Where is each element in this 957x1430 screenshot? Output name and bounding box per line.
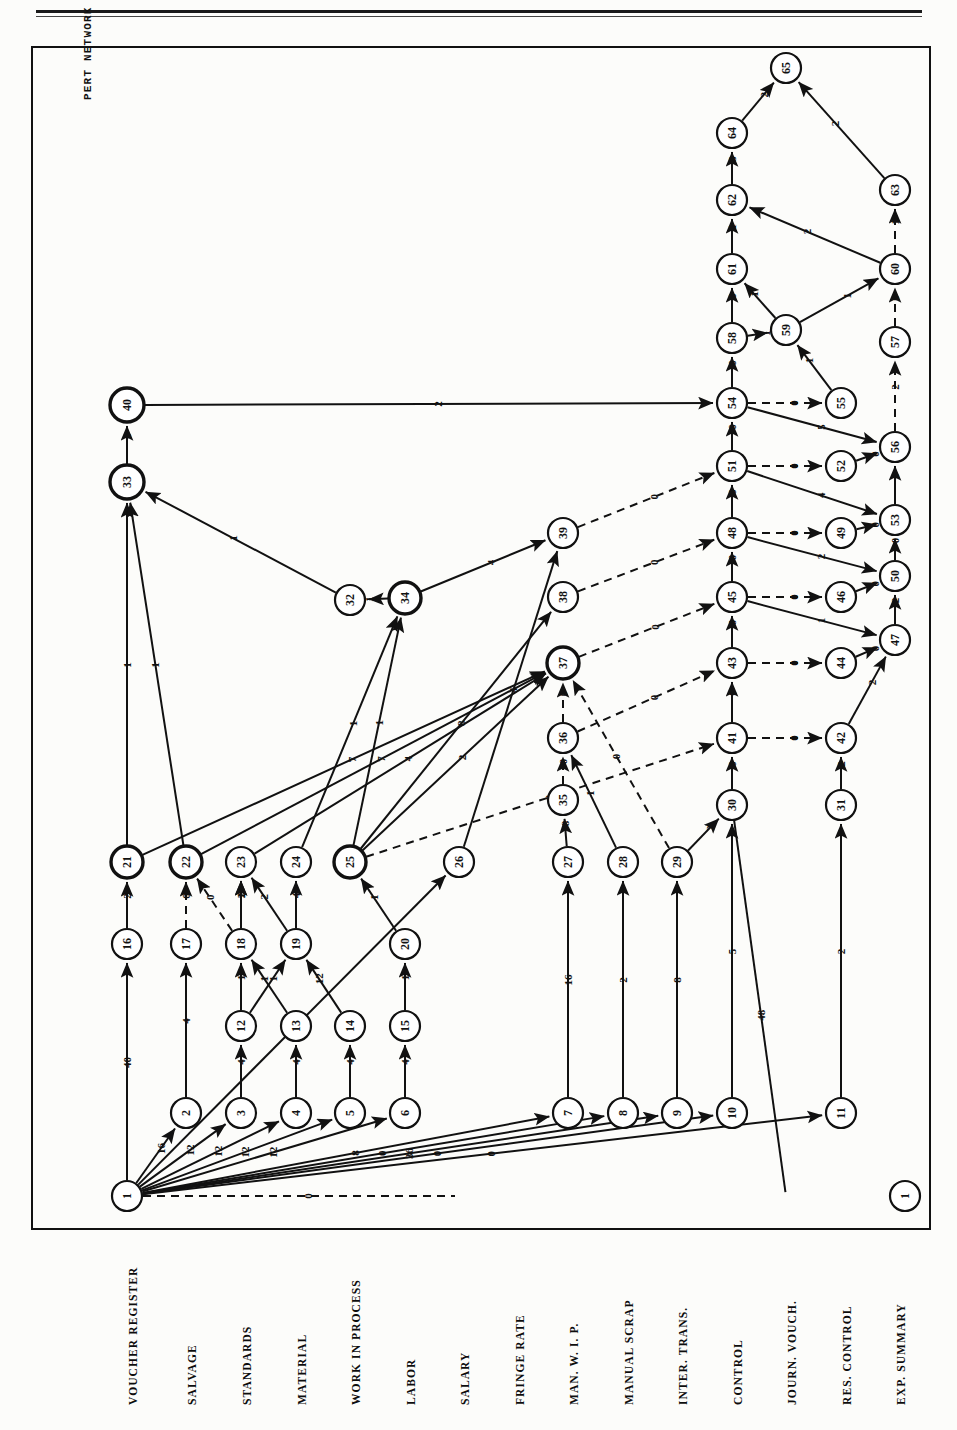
node-56[interactable]: 56 <box>880 432 910 462</box>
node-31[interactable]: 31 <box>826 790 856 820</box>
node-3[interactable]: 3 <box>226 1098 256 1128</box>
node-label-36: 36 <box>556 732 570 744</box>
edge-label-20-25: 1 <box>368 894 380 900</box>
node-9[interactable]: 9 <box>662 1098 692 1128</box>
node-45[interactable]: 45 <box>717 582 747 612</box>
node-29[interactable]: 29 <box>662 847 692 877</box>
node-48[interactable]: 48 <box>717 518 747 548</box>
node-47[interactable]: 47 <box>880 625 910 655</box>
edge-label-29-37: 0 <box>610 753 622 759</box>
node-4[interactable]: 4 <box>281 1098 311 1128</box>
node-15[interactable]: 15 <box>390 1011 420 1041</box>
node-38[interactable]: 38 <box>548 582 578 612</box>
node-54[interactable]: 54 <box>717 388 747 418</box>
node-14[interactable]: 14 <box>335 1011 365 1041</box>
node-28[interactable]: 28 <box>608 847 638 877</box>
node-44[interactable]: 44 <box>826 648 856 678</box>
edge-59-60 <box>800 278 878 322</box>
node-10[interactable]: 10 <box>717 1098 747 1128</box>
node-8[interactable]: 8 <box>608 1098 638 1128</box>
node-1b[interactable]: 1 <box>890 1181 920 1211</box>
edge-label-5-14: 4 <box>344 1059 356 1065</box>
edge-37-45 <box>579 604 714 657</box>
node-label-63: 63 <box>888 184 902 196</box>
node-22[interactable]: 22 <box>170 846 202 878</box>
node-30[interactable]: 30 <box>717 790 747 820</box>
node-46[interactable]: 46 <box>826 582 856 612</box>
node-32[interactable]: 32 <box>335 585 365 615</box>
edge-label-53-56: 0 <box>889 473 901 479</box>
edge-25-34 <box>353 618 400 846</box>
node-13[interactable]: 13 <box>281 1011 311 1041</box>
node-12[interactable]: 12 <box>226 1011 256 1041</box>
node-11[interactable]: 11 <box>826 1098 856 1128</box>
node-26[interactable]: 26 <box>444 847 474 877</box>
node-20[interactable]: 20 <box>390 929 420 959</box>
node-41[interactable]: 41 <box>717 723 747 753</box>
node-65[interactable]: 65 <box>771 53 801 83</box>
node-1[interactable]: 1 <box>112 1181 142 1211</box>
node-label-2: 2 <box>179 1110 193 1116</box>
node-19[interactable]: 19 <box>281 929 311 959</box>
edge-label-58-61: 0 <box>726 293 738 299</box>
node-52[interactable]: 52 <box>826 451 856 481</box>
node-6[interactable]: 6 <box>390 1098 420 1128</box>
row-label-9: MANUAL SCRAP <box>623 1299 635 1405</box>
node-label-8: 8 <box>616 1110 630 1116</box>
node-27[interactable]: 27 <box>553 847 583 877</box>
node-5[interactable]: 5 <box>335 1098 365 1128</box>
edge-21-37 <box>142 671 544 855</box>
row-label-7: FRINGE RATE <box>514 1314 526 1405</box>
node-23[interactable]: 23 <box>226 847 256 877</box>
node-33[interactable]: 33 <box>110 465 144 499</box>
node-58[interactable]: 58 <box>717 323 747 353</box>
node-17[interactable]: 17 <box>171 929 201 959</box>
edge-label-41-42: 0 <box>788 735 800 741</box>
node-64[interactable]: 64 <box>717 118 747 148</box>
edge-25-37 <box>362 677 548 851</box>
node-label-14: 14 <box>343 1020 357 1032</box>
node-59[interactable]: 59 <box>771 315 801 345</box>
node-57[interactable]: 57 <box>880 327 910 357</box>
node-label-6: 6 <box>398 1110 412 1116</box>
node-21[interactable]: 21 <box>111 846 143 878</box>
node-61[interactable]: 61 <box>717 254 747 284</box>
node-label-62: 62 <box>725 194 739 206</box>
node-60[interactable]: 60 <box>880 254 910 284</box>
edge-40-54 <box>145 403 713 405</box>
node-7[interactable]: 7 <box>553 1098 583 1128</box>
node-16[interactable]: 16 <box>112 929 142 959</box>
edge-30-journ <box>734 821 785 1192</box>
node-51[interactable]: 51 <box>717 451 747 481</box>
node-label-65: 65 <box>779 62 793 74</box>
node-62[interactable]: 62 <box>717 185 747 215</box>
node-50[interactable]: 50 <box>880 561 910 591</box>
node-35[interactable]: 35 <box>548 785 578 815</box>
node-34[interactable]: 34 <box>389 582 421 614</box>
edge-label-22-37: 7 <box>375 756 387 762</box>
node-label-55: 55 <box>834 397 848 409</box>
node-42[interactable]: 42 <box>826 723 856 753</box>
edge-label-11-31: 2 <box>835 948 847 954</box>
node-40[interactable]: 40 <box>110 388 144 422</box>
node-43[interactable]: 43 <box>717 648 747 678</box>
edge-label-51-53: 4 <box>815 492 827 498</box>
node-49[interactable]: 49 <box>826 518 856 548</box>
edge-label-52-56: 0 <box>869 451 881 457</box>
edge-label-46-50: 0 <box>869 580 881 586</box>
node-25[interactable]: 25 <box>334 846 366 878</box>
node-63[interactable]: 63 <box>880 175 910 205</box>
edge-label-34-39: 4 <box>485 559 497 565</box>
node-55[interactable]: 55 <box>826 388 856 418</box>
node-36[interactable]: 36 <box>548 723 578 753</box>
node-39[interactable]: 39 <box>548 518 578 548</box>
edge-55-59 <box>797 345 831 390</box>
node-18[interactable]: 18 <box>226 929 256 959</box>
node-2[interactable]: 2 <box>171 1098 201 1128</box>
node-label-61: 61 <box>725 263 739 275</box>
edge-label-48-50: 2 <box>815 553 827 559</box>
node-53[interactable]: 53 <box>880 505 910 535</box>
node-37[interactable]: 37 <box>547 647 579 679</box>
node-24[interactable]: 24 <box>281 847 311 877</box>
row-label-10: INTER. TRANS. <box>677 1307 689 1405</box>
